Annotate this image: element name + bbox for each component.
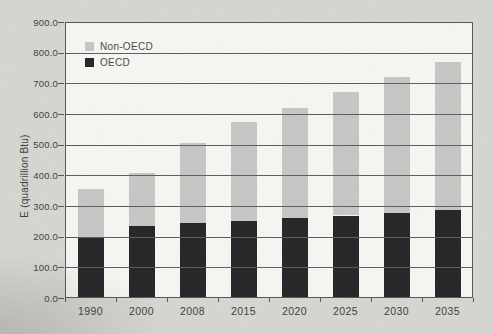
bar-segment-oecd-2008 bbox=[180, 223, 206, 298]
y-axis-tick-mark-500.0 bbox=[58, 145, 64, 146]
legend-label-oecd: OECD bbox=[100, 57, 130, 68]
x-axis-tick-mark-0 bbox=[65, 298, 66, 302]
y-tick-label-0.0: 0.0 bbox=[16, 293, 58, 304]
x-tick-label-2015: 2015 bbox=[218, 305, 269, 317]
x-axis-tick-mark-1 bbox=[116, 298, 117, 302]
x-tick-label-2035: 2035 bbox=[422, 305, 473, 317]
x-tick-label-2000: 2000 bbox=[116, 305, 167, 317]
legend-item-oecd: OECD bbox=[85, 54, 153, 70]
x-axis-tick-mark-3 bbox=[218, 298, 219, 302]
y-axis-tick-mark-600.0 bbox=[58, 114, 64, 115]
y-tick-label-400.0: 400.0 bbox=[16, 170, 58, 181]
y-tick-label-300.0: 300.0 bbox=[16, 201, 58, 212]
gridline-300 bbox=[65, 206, 473, 207]
y-tick-label-100.0: 100.0 bbox=[16, 262, 58, 273]
x-tick-label-2008: 2008 bbox=[167, 305, 218, 317]
y-tick-label-900.0: 900.0 bbox=[16, 17, 58, 28]
scanned-chart-page: E (quadrillion Btu) Non-OECDOECD 0.0100.… bbox=[0, 0, 493, 334]
x-axis-tick-mark-4 bbox=[269, 298, 270, 302]
bar-segment-non-oecd-2000 bbox=[129, 173, 155, 226]
y-axis-tick-mark-300.0 bbox=[58, 206, 64, 207]
legend-swatch-non-oecd bbox=[85, 42, 94, 51]
x-axis-tick-mark-5 bbox=[320, 298, 321, 302]
bar-segment-non-oecd-2020 bbox=[282, 108, 308, 218]
legend-item-non-oecd: Non-OECD bbox=[85, 38, 153, 54]
y-tick-label-800.0: 800.0 bbox=[16, 47, 58, 58]
x-tick-label-2025: 2025 bbox=[320, 305, 371, 317]
x-tick-label-2020: 2020 bbox=[269, 305, 320, 317]
y-tick-label-600.0: 600.0 bbox=[16, 109, 58, 120]
bar-segment-non-oecd-2025 bbox=[333, 92, 359, 215]
bar-segment-oecd-2020 bbox=[282, 218, 308, 298]
gridline-400 bbox=[65, 175, 473, 176]
legend-label-non-oecd: Non-OECD bbox=[100, 41, 153, 52]
legend-swatch-oecd bbox=[85, 58, 94, 67]
y-axis-tick-mark-700.0 bbox=[58, 83, 64, 84]
x-axis-tick-mark-7 bbox=[422, 298, 423, 302]
bar-segment-oecd-2015 bbox=[231, 221, 257, 298]
x-axis-tick-mark-6 bbox=[371, 298, 372, 302]
y-axis-tick-mark-200.0 bbox=[58, 237, 64, 238]
y-tick-label-500.0: 500.0 bbox=[16, 139, 58, 150]
gridline-100 bbox=[65, 267, 473, 268]
gridline-500 bbox=[65, 145, 473, 146]
bar-segment-oecd-2035 bbox=[435, 210, 461, 298]
bar-segment-oecd-2030 bbox=[384, 213, 410, 298]
x-tick-label-1990: 1990 bbox=[65, 305, 116, 317]
bar-segment-oecd-2025 bbox=[333, 216, 359, 298]
gridline-700 bbox=[65, 83, 473, 84]
bar-segment-non-oecd-2008 bbox=[180, 143, 206, 223]
y-axis-tick-mark-400.0 bbox=[58, 175, 64, 176]
y-tick-label-200.0: 200.0 bbox=[16, 231, 58, 242]
gridline-600 bbox=[65, 114, 473, 115]
x-tick-label-2030: 2030 bbox=[371, 305, 422, 317]
legend: Non-OECDOECD bbox=[85, 38, 153, 70]
y-axis-tick-mark-800.0 bbox=[58, 53, 64, 54]
x-axis-tick-mark-8 bbox=[473, 298, 474, 302]
bar-segment-non-oecd-1990 bbox=[78, 189, 104, 237]
gridline-200 bbox=[65, 237, 473, 238]
y-tick-label-700.0: 700.0 bbox=[16, 78, 58, 89]
x-axis-tick-mark-2 bbox=[167, 298, 168, 302]
y-axis-tick-mark-100.0 bbox=[58, 267, 64, 268]
y-axis-tick-mark-900.0 bbox=[58, 22, 64, 23]
y-axis-tick-mark-0.0 bbox=[58, 298, 64, 299]
